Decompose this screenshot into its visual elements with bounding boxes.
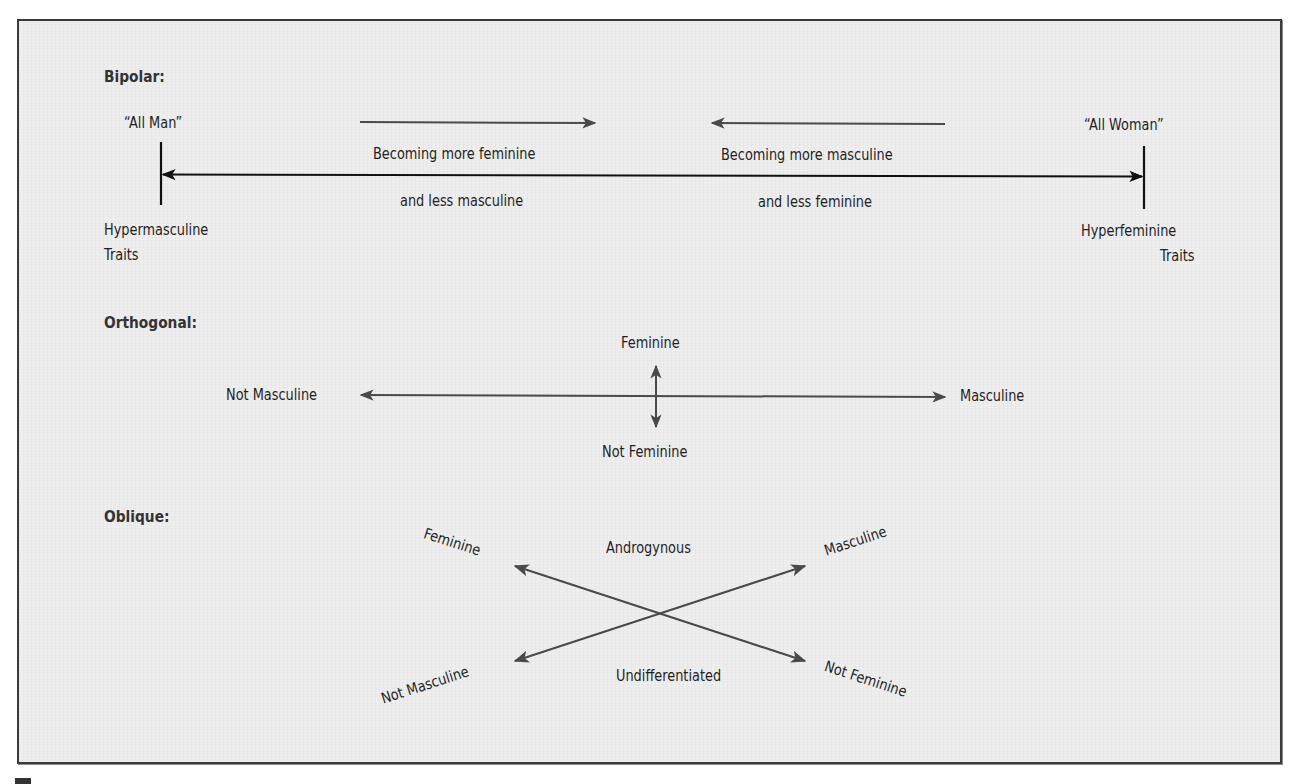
orthogonal-masculine-label: Masculine [960,387,1024,405]
orthogonal-not-feminine-label: Not Feminine [602,443,687,461]
toward-masculine-arrow [712,123,945,124]
masculinity-axis-arrow [361,395,945,397]
bipolar-heading: Bipolar: [104,68,165,86]
undifferentiated-label: Undifferentiated [616,667,721,685]
hyperfeminine-traits-label: Traits [1160,247,1195,265]
hyperfeminine-label: Hyperfeminine [1081,222,1176,240]
toward-feminine-arrow [360,122,595,123]
less-feminine-label: and less feminine [758,193,872,211]
oblique-diagram [515,566,805,661]
becoming-masculine-label: Becoming more masculine [721,146,893,164]
orthogonal-not-masculine-label: Not Masculine [226,386,317,404]
orthogonal-diagram [361,366,945,427]
bipolar-axis-arrow [163,175,1142,177]
all-woman-label: “All Woman” [1084,116,1164,134]
less-masculine-label: and less masculine [400,192,523,210]
bipolar-diagram [161,122,1144,209]
androgynous-label: Androgynous [606,539,691,557]
all-man-label: “All Man” [124,114,182,132]
hypermasculine-label: Hypermasculine [104,221,208,239]
hypermasculine-traits-label: Traits [104,246,139,264]
orthogonal-heading: Orthogonal: [104,314,197,332]
orthogonal-feminine-label: Feminine [621,334,680,352]
becoming-feminine-label: Becoming more feminine [373,145,535,163]
oblique-heading: Oblique: [104,508,169,526]
